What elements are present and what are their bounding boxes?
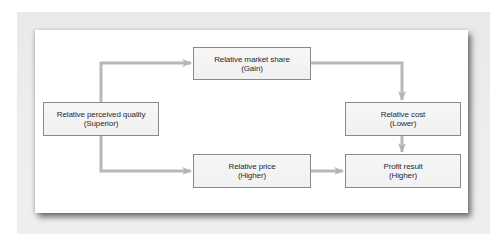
- node-title: Profit result: [383, 162, 422, 171]
- node-relative-perceived-quality: Relative perceived quality (Superior): [43, 102, 159, 136]
- node-relative-market-share: Relative market share (Gain): [193, 47, 311, 80]
- node-relative-price: Relative price (Higher): [193, 154, 311, 188]
- node-title: Relative perceived quality: [57, 110, 146, 119]
- node-title: Relative cost: [381, 110, 426, 119]
- node-title: Relative market share: [214, 55, 290, 64]
- node-relative-cost: Relative cost (Lower): [345, 102, 461, 136]
- node-subtitle: (Lower): [390, 119, 416, 128]
- node-subtitle: (Higher): [389, 171, 417, 180]
- node-profit-result: Profit result (Higher): [345, 154, 461, 188]
- node-title: Relative price: [228, 162, 275, 171]
- node-subtitle: (Superior): [84, 119, 119, 128]
- node-subtitle: (Higher): [238, 171, 266, 180]
- node-subtitle: (Gain): [241, 64, 263, 73]
